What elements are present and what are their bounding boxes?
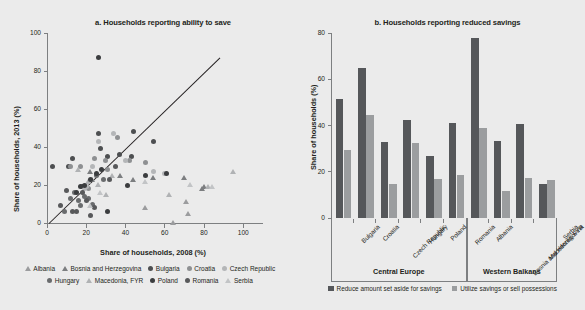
- scatter-point-circle: [70, 156, 75, 161]
- bar-utilize-savings: [389, 184, 397, 218]
- scatter-point-triangle: [117, 173, 123, 178]
- panel-a-x-tick-label: 20: [76, 229, 96, 236]
- scatter-point-triangle: [75, 167, 81, 172]
- panel-a-legend-item[interactable]: Czech Republic: [222, 265, 275, 272]
- panel-a-y-axis: [47, 33, 48, 223]
- panel-a-x-tick: [125, 224, 126, 228]
- bar-utilize-savings: [366, 115, 374, 218]
- scatter-point-circle: [88, 177, 93, 182]
- panel-a-x-tick: [47, 224, 48, 228]
- legend-swatch-icon: [452, 286, 458, 292]
- panel-a-legend-label: Romania: [192, 277, 218, 284]
- scatter-point-circle: [98, 146, 103, 151]
- panel-b-x-tick: [511, 219, 512, 223]
- panel-a-y-tick-label: 0: [21, 219, 41, 226]
- scatter-point-triangle: [170, 220, 176, 225]
- scatter-point-circle: [143, 160, 148, 165]
- scatter-point-circle: [96, 139, 101, 144]
- scatter-point-triangle: [130, 177, 136, 182]
- panel-a-y-tick: [44, 147, 48, 148]
- panel-a-legend-item[interactable]: Hungary: [47, 277, 79, 284]
- panel-b-bars: [331, 33, 557, 218]
- panel-b-legend-item[interactable]: Utilize savings or sell possessions: [452, 285, 557, 292]
- panel-a-legend-item[interactable]: Bosnia and Herzegovina: [62, 265, 141, 272]
- scatter-point-circle: [94, 171, 99, 176]
- panel-b-x-tick: [420, 219, 421, 223]
- scatter-point-circle: [96, 55, 101, 60]
- scatter-point-triangle: [142, 205, 148, 210]
- panel-b-x-tick: [466, 219, 467, 223]
- scatter-point-circle: [68, 196, 73, 201]
- panel-a-legend-item[interactable]: Poland: [150, 277, 178, 284]
- panel-b-x-tick: [353, 219, 354, 223]
- panel-b-legend-label: Reduce amount set aside for savings: [337, 285, 442, 292]
- scatter-point-circle: [96, 131, 101, 136]
- panel-a-x-axis-title: Share of households, 2008 (%): [47, 248, 259, 257]
- panel-a-legend-item[interactable]: Albania: [25, 265, 55, 272]
- scatter-point-circle: [84, 198, 89, 203]
- panel-a-y-tick: [44, 71, 48, 72]
- panel-a-legend-item[interactable]: Romania: [185, 277, 219, 284]
- scatter-point-circle: [99, 167, 104, 172]
- scatter-point-circle: [164, 171, 169, 176]
- panel-a-legend-label: Croatia: [194, 265, 215, 272]
- panel-a-x-tick-label: 40: [116, 229, 136, 236]
- panel-a-reference-line: [49, 58, 220, 224]
- bar-utilize-savings: [412, 143, 420, 218]
- panel-a-legend-item[interactable]: Bulgaria: [148, 265, 179, 272]
- legend-marker-icon: [47, 278, 52, 283]
- panel-b-legend-item[interactable]: Reduce amount set aside for savings: [328, 285, 442, 292]
- bar-utilize-savings: [502, 191, 510, 218]
- scatter-point-circle: [78, 203, 83, 208]
- panel-a-y-tick: [44, 109, 48, 110]
- panel-a-legend-item[interactable]: Croatia: [187, 265, 215, 272]
- panel-b-legend: Reduce amount set aside for savingsUtili…: [300, 285, 585, 292]
- panel-a-legend-item[interactable]: Serbia: [225, 277, 252, 284]
- bar-reduce-amount: [426, 156, 434, 218]
- panel-a-title: a. Households reporting ability to save: [0, 18, 300, 27]
- panel-a-x-tick: [164, 224, 165, 228]
- scatter-point-circle: [113, 164, 118, 169]
- bar-reduce-amount: [358, 68, 366, 218]
- panel-a-x-tick-label: 60: [155, 229, 175, 236]
- scatter-point-circle: [58, 203, 63, 208]
- panel-a-x-tick-label: 0: [37, 229, 57, 236]
- panel-a-legend-label: Macedonia, FYR: [95, 277, 143, 284]
- scatter-point-circle: [90, 164, 95, 169]
- panel-a-x-tick: [86, 224, 87, 228]
- scatter-point-circle: [143, 173, 148, 178]
- scatter-point-triangle: [183, 199, 189, 204]
- panel-a-x-tick-label: 100: [233, 229, 253, 236]
- legend-marker-icon: [25, 266, 31, 271]
- scatter-point-triangle: [187, 182, 193, 187]
- panel-b-y-tick-label: 60: [306, 75, 325, 82]
- legend-marker-icon: [185, 278, 190, 283]
- panel-b-x-tick: [398, 219, 399, 223]
- panel-a-x-tick: [204, 224, 205, 228]
- scatter-point-triangle: [166, 192, 172, 197]
- bar-reduce-amount: [471, 38, 479, 218]
- legend-marker-icon: [222, 266, 227, 271]
- scatter-point-circle: [105, 167, 110, 172]
- legend-marker-icon: [86, 278, 92, 283]
- scatter-point-circle: [74, 209, 79, 214]
- bar-utilize-savings: [547, 180, 555, 218]
- bar-reduce-amount: [494, 141, 502, 218]
- bar-utilize-savings: [457, 175, 465, 218]
- scatter-point-circle: [62, 209, 67, 214]
- panel-b-y-tick-label: 80: [306, 29, 325, 36]
- scatter-point-triangle: [230, 169, 236, 174]
- panel-a-legend-item[interactable]: Macedonia, FYR: [86, 277, 143, 284]
- scatter-point-circle: [125, 183, 130, 188]
- scatter-point-triangle: [181, 175, 187, 180]
- panel-a-y-tick: [44, 185, 48, 186]
- scatter-point-circle: [103, 158, 108, 163]
- bar-utilize-savings: [479, 128, 487, 218]
- scatter-point-circle: [92, 156, 97, 161]
- scatter-point-triangle: [97, 190, 103, 195]
- panel-b-title: b. Households reporting reduced savings: [300, 18, 585, 27]
- panel-b-y-tick-label: 40: [306, 122, 325, 129]
- panel-a-legend-row-1: AlbaniaBosnia and HerzegovinaBulgariaCro…: [0, 262, 300, 274]
- panel-a-y-tick-label: 60: [21, 105, 41, 112]
- scatter-point-circle: [68, 164, 73, 169]
